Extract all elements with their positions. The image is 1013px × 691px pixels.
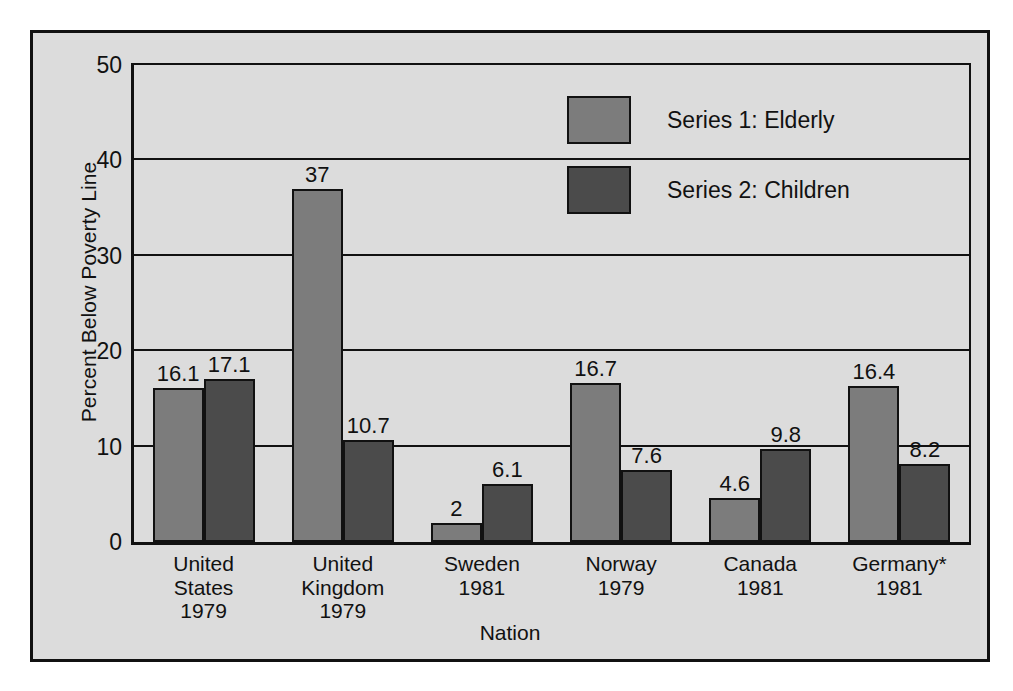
x-tick-label-line: Sweden xyxy=(412,552,551,576)
bar-value-label: 4.6 xyxy=(719,471,750,497)
legend-label: Series 2: Children xyxy=(667,177,850,204)
legend-item[interactable]: Series 1: Elderly xyxy=(567,85,897,155)
bar[interactable]: 6.1 xyxy=(482,484,533,542)
legend-swatch xyxy=(567,96,631,144)
bar-value-label: 16.1 xyxy=(157,361,200,387)
bar-value-label: 6.1 xyxy=(492,457,523,483)
x-tick-label: UnitedKingdom1979 xyxy=(273,552,412,623)
x-tick-label-line: 1979 xyxy=(552,576,691,600)
bar[interactable]: 37 xyxy=(292,189,343,542)
bar-value-label: 2 xyxy=(450,496,462,522)
bar-value-label: 9.8 xyxy=(770,422,801,448)
bar-value-label: 37 xyxy=(305,162,329,188)
x-tick-label-line: Germany* xyxy=(830,552,969,576)
x-tick-label: Norway1979 xyxy=(552,552,691,599)
x-tick-label-line: 1979 xyxy=(134,599,273,623)
bar-value-label: 16.4 xyxy=(852,359,895,385)
x-tick-label-line: 1981 xyxy=(830,576,969,600)
bar[interactable]: 8.2 xyxy=(899,464,950,542)
bar[interactable]: 10.7 xyxy=(343,440,394,542)
x-tick-label: Canada1981 xyxy=(691,552,830,599)
chart-figure-frame: Percent Below Poverty Line 01020304050 1… xyxy=(30,30,990,662)
bar[interactable]: 17.1 xyxy=(204,379,255,542)
y-tick-label: 0 xyxy=(109,529,122,556)
x-tick-label: Sweden1981 xyxy=(412,552,551,599)
bar[interactable]: 4.6 xyxy=(709,498,760,542)
bar[interactable]: 16.4 xyxy=(848,386,899,542)
bar-group: 26.1 xyxy=(412,65,551,542)
y-tick-label: 20 xyxy=(96,338,122,365)
bar-group: 16.117.1 xyxy=(134,65,273,542)
bar[interactable]: 16.1 xyxy=(153,388,204,542)
y-tick-label: 30 xyxy=(96,242,122,269)
x-tick-label-line: United xyxy=(134,552,273,576)
bar-value-label: 8.2 xyxy=(910,437,941,463)
x-tick-label: UnitedStates1979 xyxy=(134,552,273,623)
bar-group: 3710.7 xyxy=(273,65,412,542)
x-tick-label-line: Kingdom xyxy=(273,576,412,600)
x-tick-label-line: 1981 xyxy=(691,576,830,600)
x-tick-label-line: Canada xyxy=(691,552,830,576)
bar[interactable]: 7.6 xyxy=(621,470,672,543)
bar[interactable]: 16.7 xyxy=(570,383,621,542)
legend-swatch xyxy=(567,166,631,214)
bar-value-label: 17.1 xyxy=(208,352,251,378)
x-tick-label: Germany*1981 xyxy=(830,552,969,599)
y-tick-label: 50 xyxy=(96,52,122,79)
legend-label: Series 1: Elderly xyxy=(667,107,834,134)
bar-value-label: 7.6 xyxy=(631,443,662,469)
x-tick-label-line: 1979 xyxy=(273,599,412,623)
x-tick-label-line: United xyxy=(273,552,412,576)
legend-item[interactable]: Series 2: Children xyxy=(567,155,897,225)
y-tick-label: 40 xyxy=(96,147,122,174)
x-tick-label-line: States xyxy=(134,576,273,600)
bar-value-label: 10.7 xyxy=(347,413,390,439)
x-tick-label-line: Norway xyxy=(552,552,691,576)
y-tick-label: 10 xyxy=(96,433,122,460)
bar[interactable]: 2 xyxy=(431,523,482,542)
bar-value-label: 16.7 xyxy=(574,356,617,382)
x-tick-label-line: 1981 xyxy=(412,576,551,600)
chart-legend: Series 1: ElderlySeries 2: Children xyxy=(567,85,897,225)
x-axis-title: Nation xyxy=(33,621,987,645)
bar[interactable]: 9.8 xyxy=(760,449,811,542)
